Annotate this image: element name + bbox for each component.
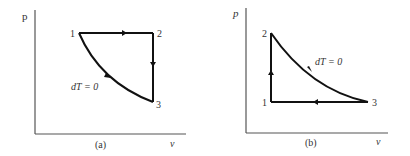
x-axis-label: v: [170, 138, 175, 149]
panel-a: p v (a) 1 2 3 dT = 0: [22, 10, 186, 151]
x-axis-label: v: [376, 136, 381, 147]
arrow-down-icon: [150, 62, 156, 67]
path-2-3-isotherm: [271, 33, 368, 102]
panel-caption: (b): [305, 137, 317, 149]
arrow-right-icon: [122, 30, 127, 36]
point-label-3: 3: [372, 97, 377, 108]
arrow-left-icon: [313, 99, 318, 105]
process-label: dT = 0: [71, 81, 98, 92]
y-axis-label: p: [232, 7, 239, 19]
arrow-up-icon: [268, 70, 274, 75]
point-label-2: 2: [262, 28, 267, 39]
point-label-2: 2: [157, 28, 162, 39]
arrow-icon: [307, 66, 312, 72]
point-label-3: 3: [156, 99, 161, 110]
y-axis-label: p: [22, 10, 28, 22]
point-label-1: 1: [262, 97, 267, 108]
panel-caption: (a): [95, 139, 106, 151]
panel-b: p v (b) 1 2 3 dT = 0: [232, 7, 388, 149]
process-label: dT = 0: [315, 56, 342, 67]
pv-diagrams: p v (a) 1 2 3 dT = 0 p v (b) 1 2: [0, 0, 410, 156]
point-label-1: 1: [70, 28, 75, 39]
